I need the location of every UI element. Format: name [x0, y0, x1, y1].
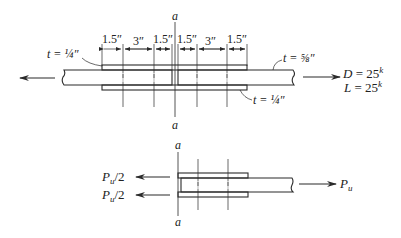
top-splice-plate	[102, 65, 247, 70]
bottom-splice-plate	[102, 85, 247, 90]
section-label-top: a	[172, 9, 178, 23]
leader-bottom-right	[240, 90, 252, 100]
dim-3: 1.5″	[153, 32, 173, 46]
main-plate-left	[62, 70, 172, 85]
section-label-bottom: a	[172, 118, 178, 132]
thickness-bottom-right: t = ¼″	[253, 93, 285, 107]
lap-splice-diagram: a a 1.5″ 3″ 1.5″ 1.5″ 3″ 1.5″ t = ¼″ t =…	[0, 0, 401, 238]
force-right-label: Pu	[339, 176, 353, 193]
leader-main-plate	[273, 60, 282, 70]
live-load-label: L = 25k	[343, 79, 383, 95]
thickness-main-plate: t = ⅝″	[283, 51, 315, 65]
leader-top-left	[82, 58, 102, 66]
dim-4: 1.5″	[177, 32, 197, 46]
dim-5: 3″	[205, 34, 216, 48]
lower-bolt-lines	[198, 159, 228, 210]
force-bottom-left-label: Pu/2	[101, 187, 125, 204]
lower-bottom-splice-plate	[178, 192, 248, 197]
bolt-lines	[102, 44, 247, 107]
lower-section-label-bottom: a	[175, 215, 181, 229]
dim-1: 1.5″	[102, 32, 122, 46]
force-top-left-label: Pu/2	[101, 169, 125, 186]
main-plate-right	[178, 70, 295, 85]
thickness-top-left: t = ¼″	[47, 47, 79, 61]
bottom-free-body-diagram	[136, 152, 336, 216]
dim-2: 3″	[133, 34, 144, 48]
dim-6: 1.5″	[227, 32, 247, 46]
lower-top-splice-plate	[178, 173, 248, 178]
lower-section-label-top: a	[175, 138, 181, 152]
